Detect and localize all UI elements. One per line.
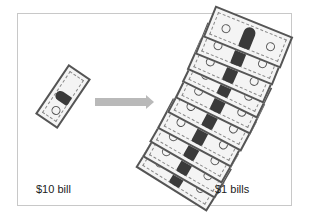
right-arrow-icon: [95, 98, 147, 106]
ten-dollar-label: $10 bill: [36, 183, 71, 195]
one-dollar-label: $1 bills: [215, 183, 249, 195]
